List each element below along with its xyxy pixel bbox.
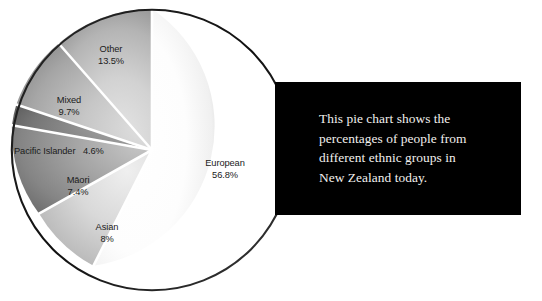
- pie-label-other: Other 13.5%: [78, 44, 144, 67]
- pie-label-pacific-islander-value: 4.6%: [83, 146, 104, 156]
- callout-line-2: percentages of people from: [319, 129, 497, 149]
- callout-box: This pie chart shows the percentages of …: [275, 82, 521, 215]
- pie-label-maori: Māori 7.4%: [47, 175, 109, 198]
- callout-line-4: New Zealand today.: [319, 168, 497, 188]
- pie-label-other-value: 13.5%: [78, 56, 144, 68]
- pie-label-maori-value: 7.4%: [47, 187, 109, 199]
- pie-label-asian-name: Asian: [78, 222, 136, 234]
- pie-label-european-value: 56.8%: [187, 170, 263, 182]
- pie-chart-figure: Other 13.5% Mixed 9.7% Pacific Islander …: [0, 0, 542, 301]
- callout-text: This pie chart shows the percentages of …: [319, 109, 497, 187]
- pie-label-pacific-islander-name: Pacific Islander: [14, 146, 75, 156]
- pie-label-mixed-value: 9.7%: [38, 107, 100, 119]
- callout-line-1: This pie chart shows the: [319, 109, 497, 129]
- callout-line-3: different ethnic groups in: [319, 148, 497, 168]
- pie-chart: Other 13.5% Mixed 9.7% Pacific Islander …: [0, 0, 310, 301]
- pie-label-other-name: Other: [78, 44, 144, 56]
- pie-label-european: European 56.8%: [187, 158, 263, 181]
- pie-label-mixed-name: Mixed: [38, 95, 100, 107]
- pie-label-european-name: European: [187, 158, 263, 170]
- pie-label-pacific-islander: Pacific Islander 4.6%: [14, 146, 146, 158]
- pie-label-asian: Asian 8%: [78, 222, 136, 245]
- pie-label-asian-value: 8%: [78, 234, 136, 246]
- pie-label-maori-name: Māori: [47, 175, 109, 187]
- pie-label-mixed: Mixed 9.7%: [38, 95, 100, 118]
